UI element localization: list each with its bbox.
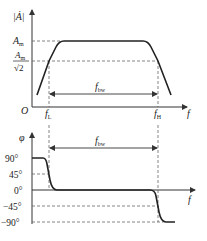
am-over-sqrt2-denominator: √2 bbox=[14, 63, 23, 73]
frequency-response-diagram: |Ȧ| Am Am √2 O fL fH f fbw φ 90° 45° 0° … bbox=[0, 0, 207, 241]
phase-axis-label: φ bbox=[19, 132, 25, 143]
tick-0: 0° bbox=[14, 186, 23, 196]
magnitude-x-axis-label: f bbox=[187, 108, 191, 119]
phase-x-axis-label: f bbox=[188, 194, 192, 205]
origin-label: O bbox=[21, 105, 28, 116]
phase-bandwidth-label: fbw bbox=[95, 135, 106, 147]
phase-plot: φ 90° 45° 0° −45° −90° f fbw bbox=[1, 125, 195, 228]
tick-minus45: −45° bbox=[3, 202, 22, 212]
fl-label: fL bbox=[45, 108, 52, 120]
tick-90: 90° bbox=[5, 154, 19, 164]
tick-45: 45° bbox=[9, 170, 23, 180]
am-over-sqrt2-numerator: Am bbox=[14, 50, 26, 61]
magnitude-plot: |Ȧ| Am Am √2 O fL fH f fbw bbox=[12, 10, 191, 120]
fh-label: fH bbox=[154, 108, 162, 120]
magnitude-axis-label: |Ȧ| bbox=[13, 11, 25, 22]
bandwidth-label: fbw bbox=[95, 81, 106, 93]
tick-minus90: −90° bbox=[1, 218, 20, 228]
am-label: Am bbox=[12, 35, 24, 47]
